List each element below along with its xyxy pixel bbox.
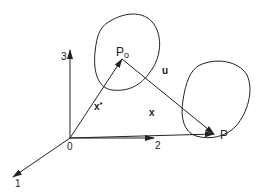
origin-label: 0 <box>67 142 73 152</box>
vector-diagram: 3 2 1 0 Po P x* x u <box>0 0 261 193</box>
point-P0-label: Po <box>116 46 129 58</box>
vector-x-star <box>70 59 122 138</box>
diagram-canvas <box>0 0 261 193</box>
axis-3-label: 3 <box>61 52 67 62</box>
axis-2-label: 2 <box>155 141 161 151</box>
vector-u-label: u <box>162 66 168 76</box>
axis-1-label: 1 <box>15 179 21 189</box>
vector-x-label: x <box>149 108 155 118</box>
vector-x-star-label: x* <box>94 102 103 112</box>
point-P-label: P <box>220 129 228 141</box>
region-around-P <box>182 61 250 138</box>
vector-x <box>70 134 214 138</box>
axis-1 <box>13 138 70 177</box>
